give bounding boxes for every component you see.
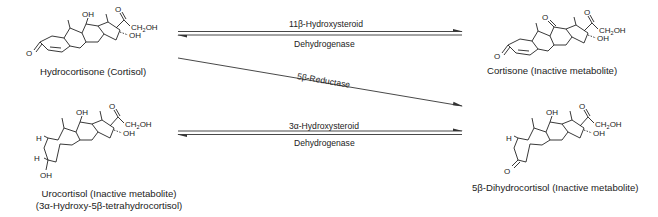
- caption-cortisol: Hydrocortisone (Cortisol): [40, 66, 146, 77]
- svg-text:OH: OH: [40, 171, 52, 180]
- svg-text:O: O: [109, 102, 115, 111]
- caption-urocortisol-line2: (3α-Hydroxy-5β-tetrahydrocortisol): [0, 200, 218, 211]
- c17-hydroxyl: OH: [129, 31, 141, 40]
- svg-text:H: H: [34, 154, 40, 163]
- caption-urocortisol-line1: Urocortisol (Inactive metabolite): [0, 188, 218, 199]
- enzyme-label-3a-hsd-line1: 3α-Hydroxysteroid: [289, 121, 359, 131]
- arrow-top-forward: [178, 29, 463, 32]
- arrow-top-reverse: [177, 35, 462, 38]
- arrow-bottom-reverse: [177, 135, 462, 138]
- side-carbonyl-oxygen: O: [115, 5, 121, 14]
- structure-cortisol: O OH O CH2OH OH: [26, 5, 158, 58]
- svg-text:O: O: [579, 102, 585, 111]
- c11-hydroxyl: OH: [82, 10, 94, 19]
- c3-oxygen: O: [26, 49, 32, 58]
- svg-text:OH: OH: [597, 34, 609, 43]
- caption-dihydrocortisol: 5β-Dihydrocortisol (Inactive metabolite): [472, 182, 639, 193]
- svg-text:O: O: [494, 52, 500, 61]
- svg-text:OH: OH: [123, 129, 135, 138]
- structure-dihydrocortisol: OH O CH2OH OH H O: [504, 102, 622, 176]
- c11-oxygen: O: [542, 13, 548, 22]
- caption-cortisone: Cortisone (Inactive metabolite): [487, 65, 617, 76]
- svg-text:OH: OH: [546, 108, 558, 117]
- svg-text:O: O: [584, 8, 590, 17]
- svg-text:H: H: [36, 134, 42, 143]
- structure-urocortisol: OH O CH2OH OH H H OH: [34, 102, 152, 180]
- svg-text:H: H: [506, 134, 512, 143]
- svg-text:O: O: [504, 167, 510, 176]
- enzyme-label-11b-hsd-line2: Dehydrogenase: [294, 39, 355, 49]
- svg-text:OH: OH: [76, 108, 88, 117]
- structure-cortisone: O O O CH2OH OH: [494, 8, 626, 61]
- enzyme-label-11b-hsd-line1: 11β-Hydroxysteroid: [289, 19, 363, 29]
- svg-text:OH: OH: [593, 129, 605, 138]
- enzyme-label-3a-hsd-line2: Dehydrogenase: [294, 138, 355, 148]
